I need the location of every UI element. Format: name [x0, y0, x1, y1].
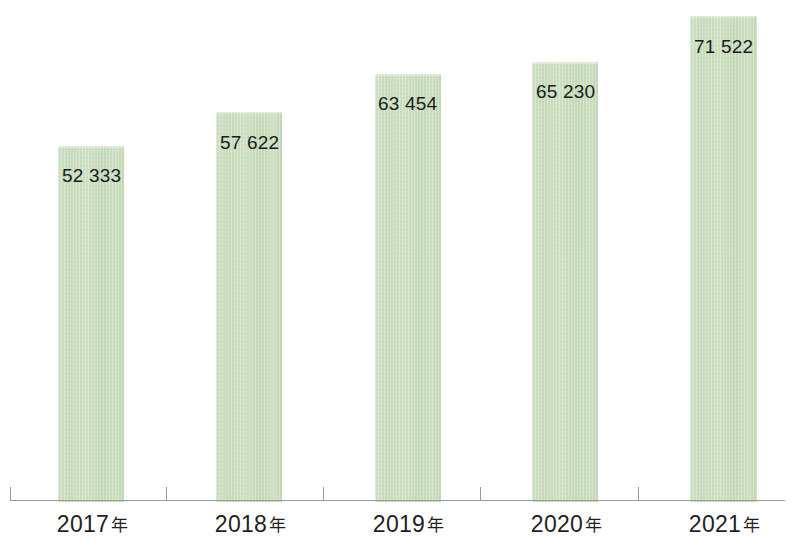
x-axis-label-2021-year: 2021 — [689, 511, 741, 537]
bar-2020 — [532, 62, 598, 502]
bar-value-label-2020: 65 230 — [536, 82, 595, 101]
x-axis-label-2020-suffix: 年 — [585, 516, 602, 535]
x-axis-tick-4 — [638, 487, 639, 500]
x-axis-label-2018-suffix: 年 — [269, 516, 286, 535]
x-axis-label-2018-year: 2018 — [215, 511, 267, 537]
x-axis-label-2019-year: 2019 — [373, 511, 425, 537]
x-axis-label-2020-year: 2020 — [531, 511, 583, 537]
x-axis-label-2017-suffix: 年 — [111, 516, 128, 535]
x-axis-tick-0 — [10, 487, 11, 500]
x-axis-label-2020: 2020年 — [504, 511, 629, 539]
bar-value-label-2017: 52 333 — [62, 166, 121, 185]
x-axis-label-2021: 2021年 — [662, 511, 787, 539]
x-axis-label-2018: 2018年 — [188, 511, 313, 539]
plot-area: 52 333 57 622 63 454 65 230 71 522 — [0, 0, 792, 502]
x-axis-label-2021-suffix: 年 — [743, 516, 760, 535]
x-axis-label-2019-suffix: 年 — [427, 516, 444, 535]
bar-value-label-2019: 63 454 — [378, 94, 437, 113]
bar-2017 — [58, 146, 124, 502]
bar-2019 — [375, 74, 441, 502]
x-axis-tick-3 — [480, 487, 481, 500]
x-axis-label-2017: 2017年 — [30, 511, 155, 539]
x-axis-label-2017-year: 2017 — [57, 511, 109, 537]
bar-2021 — [690, 16, 757, 502]
x-axis-line — [10, 500, 785, 501]
bar-value-label-2018: 57 622 — [220, 133, 279, 152]
x-axis-label-2019: 2019年 — [346, 511, 471, 539]
x-axis-tick-1 — [166, 487, 167, 500]
bar-2018 — [216, 112, 282, 502]
bar-chart: 52 333 57 622 63 454 65 230 71 522 2017年… — [0, 0, 792, 541]
x-axis-tick-2 — [323, 487, 324, 500]
bar-value-label-2021: 71 522 — [694, 37, 753, 56]
